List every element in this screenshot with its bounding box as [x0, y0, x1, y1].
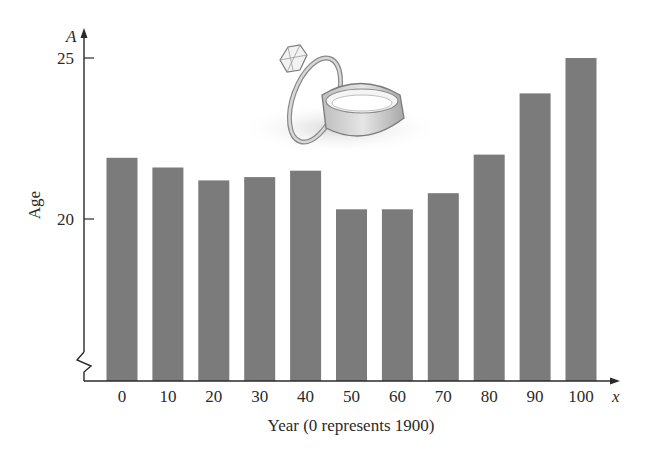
- xtick-label: 30: [251, 387, 268, 406]
- bar-0: [107, 158, 138, 381]
- x-axis-arrow-icon: [610, 378, 620, 385]
- y-axis-title: Age: [25, 191, 44, 219]
- xtick-label: 40: [297, 387, 314, 406]
- bar-100: [566, 58, 597, 381]
- bar-10: [152, 168, 183, 382]
- bar-30: [244, 177, 275, 381]
- x-axis-title: Year (0 represents 1900): [268, 416, 435, 435]
- bar-20: [198, 180, 229, 381]
- bar-50: [336, 209, 367, 381]
- xtick-label: 50: [343, 387, 360, 406]
- wedding-rings-illustration: [240, 45, 440, 154]
- bar-70: [428, 193, 459, 381]
- x-axis-variable: x: [611, 387, 620, 406]
- y-axis-variable: A: [65, 27, 77, 46]
- xtick-label: 90: [527, 387, 544, 406]
- bar-60: [382, 209, 413, 381]
- x-axis: x 0102030405060708090100 Year (0 represe…: [84, 378, 620, 436]
- bar-80: [474, 155, 505, 381]
- xtick-label: 80: [481, 387, 498, 406]
- xtick-label: 100: [568, 387, 594, 406]
- ytick-label-25: 25: [57, 49, 74, 68]
- bar-90: [520, 93, 551, 381]
- xtick-label: 70: [435, 387, 452, 406]
- y-axis: 25 20 A Age: [25, 27, 94, 381]
- bar-chart: 25 20 A Age x 0102030405060708090100 Yea…: [0, 0, 645, 451]
- xtick-label: 60: [389, 387, 406, 406]
- x-tick-labels: 0102030405060708090100: [118, 387, 594, 406]
- xtick-label: 10: [159, 387, 176, 406]
- ytick-label-20: 20: [57, 210, 74, 229]
- xtick-label: 0: [118, 387, 127, 406]
- bar-40: [290, 171, 321, 381]
- xtick-label: 20: [205, 387, 222, 406]
- y-axis-arrow-icon: [81, 28, 88, 38]
